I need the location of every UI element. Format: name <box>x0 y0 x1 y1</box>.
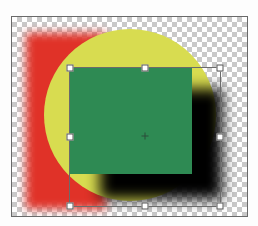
handle-bottom-middle[interactable] <box>142 203 149 210</box>
handle-middle-left[interactable] <box>67 134 74 141</box>
handle-bottom-right[interactable] <box>217 203 224 210</box>
handle-top-right[interactable] <box>217 65 224 72</box>
transform-center-crosshair-icon[interactable] <box>142 133 149 140</box>
handle-top-middle[interactable] <box>142 65 149 72</box>
handle-bottom-left[interactable] <box>67 203 74 210</box>
handle-top-left[interactable] <box>67 65 74 72</box>
canvas[interactable] <box>11 16 248 217</box>
handle-middle-right[interactable] <box>217 134 224 141</box>
